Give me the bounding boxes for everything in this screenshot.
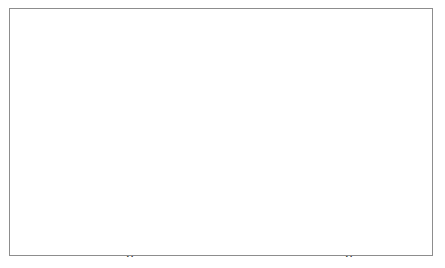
figure-outer-border xyxy=(9,8,433,256)
figure-container: 501001506080100120xy-2-1012-2024xy xyxy=(0,0,445,268)
